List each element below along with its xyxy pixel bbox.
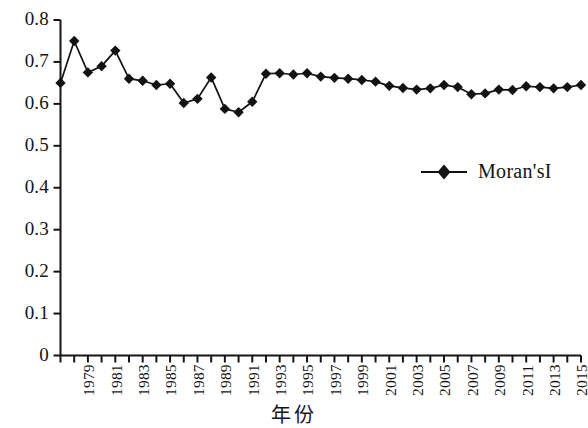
x-tick-label: 2011 [519, 365, 537, 396]
x-tick-label: 1987 [190, 364, 208, 396]
data-point-marker [274, 68, 284, 78]
data-point-marker [507, 85, 517, 95]
y-tick-label: 0.8 [5, 8, 49, 30]
data-point-marker [343, 74, 353, 84]
y-tick-label: 0.4 [5, 176, 49, 198]
y-tick-label: 0.5 [5, 134, 49, 156]
x-tick-label: 1979 [80, 364, 98, 396]
data-point-marker [206, 72, 216, 82]
data-point-marker [453, 82, 463, 92]
chart-axes [61, 20, 582, 356]
data-point-marker [55, 78, 65, 88]
y-tick-label: 0.2 [5, 260, 49, 282]
chart-figure: 0.80.70.60.50.40.30.20.10 19791981198319… [0, 0, 588, 428]
x-tick-label: 2009 [491, 364, 509, 396]
data-point-marker [220, 104, 230, 114]
x-tick-label: 2001 [382, 364, 400, 396]
data-point-marker [261, 68, 271, 78]
y-tick-label: 0 [5, 344, 49, 366]
x-axis-title: 年份 [0, 399, 588, 428]
data-point-marker [302, 68, 312, 78]
legend-label-morans-i: Moran'sI [478, 160, 552, 183]
data-point-marker [151, 80, 161, 90]
x-tick-label: 1997 [327, 364, 345, 396]
x-tick-label: 2003 [409, 364, 427, 396]
data-point-marker [535, 82, 545, 92]
data-point-marker [439, 80, 449, 90]
data-point-marker [384, 81, 394, 91]
data-point-marker [480, 88, 490, 98]
x-tick-label: 2013 [546, 364, 564, 396]
data-point-marker [179, 98, 189, 108]
x-tick-label: 1989 [217, 364, 235, 396]
x-tick-label: 1995 [299, 364, 317, 396]
x-tick-label: 1999 [354, 364, 372, 396]
data-point-marker [548, 83, 558, 93]
x-tick-label: 2005 [436, 364, 454, 396]
y-axis-ticks [54, 20, 61, 356]
x-tick-label: 2007 [464, 364, 482, 396]
chart-legend: Moran'sI [419, 160, 552, 183]
data-point-marker [329, 73, 339, 83]
data-point-marker [83, 67, 93, 77]
data-point-marker [411, 84, 421, 94]
data-point-marker [357, 75, 367, 85]
data-point-marker [398, 83, 408, 93]
data-point-marker [466, 89, 476, 99]
data-point-marker [288, 69, 298, 79]
data-point-marker [370, 76, 380, 86]
x-tick-label: 1981 [108, 364, 126, 396]
x-tick-label: 1991 [245, 364, 263, 396]
x-tick-label: 1983 [135, 364, 153, 396]
data-point-marker [425, 83, 435, 93]
data-point-marker [494, 84, 504, 94]
data-point-marker [69, 36, 79, 46]
y-tick-label: 0.3 [5, 218, 49, 240]
x-tick-label: 1985 [162, 364, 180, 396]
data-point-marker [576, 80, 586, 90]
x-axis-ticks [61, 356, 582, 363]
data-point-marker [192, 94, 202, 104]
x-tick-label: 2015 [573, 364, 588, 396]
y-tick-label: 0.7 [5, 50, 49, 72]
data-point-marker [165, 79, 175, 89]
data-series-group [55, 36, 586, 118]
data-point-marker [124, 74, 134, 84]
y-tick-label: 0.6 [5, 92, 49, 114]
series-markers-morans-i [55, 36, 586, 118]
data-point-marker [521, 81, 531, 91]
y-tick-label: 0.1 [5, 302, 49, 324]
x-tick-label: 1993 [272, 364, 290, 396]
data-point-marker [316, 71, 326, 81]
legend-marker-morans-i [419, 162, 469, 182]
data-point-marker [562, 82, 572, 92]
data-point-marker [137, 76, 147, 86]
